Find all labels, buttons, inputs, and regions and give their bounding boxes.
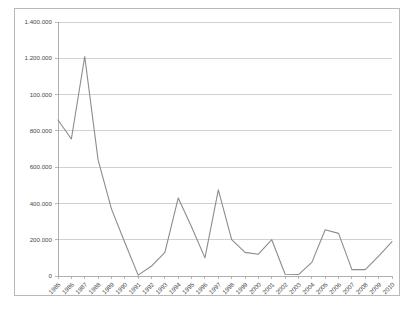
x-axis-tick-label: 2008 bbox=[354, 280, 369, 295]
x-axis-tick-label: 2001 bbox=[261, 280, 276, 295]
gridlines-group bbox=[58, 22, 392, 240]
x-axis-tick-label: 2005 bbox=[314, 280, 329, 295]
x-axis-tick-label: 1991 bbox=[127, 280, 142, 295]
y-axis-tick-label: 600.000 bbox=[30, 163, 53, 170]
x-axis-tick-label: 2007 bbox=[341, 280, 356, 295]
x-axis-tick-label: 1992 bbox=[141, 280, 156, 295]
x-axis-tick-label: 2009 bbox=[368, 280, 383, 295]
y-axis-tick-marks bbox=[55, 22, 58, 276]
y-axis-tick-label: 400.000 bbox=[30, 200, 53, 207]
x-axis-tick-label: 1994 bbox=[167, 280, 182, 295]
x-axis-tick-marks bbox=[58, 276, 392, 279]
y-axis-tick-label: 1.400.000 bbox=[24, 18, 52, 25]
x-axis-tick-label: 2003 bbox=[288, 280, 303, 295]
data-series-line bbox=[58, 56, 392, 275]
y-axis-tick-labels: 1.400.0001.200.000100.000800.000600.0004… bbox=[24, 18, 52, 279]
x-axis-tick-label: 1993 bbox=[154, 280, 169, 295]
x-axis-tick-label: 1988 bbox=[87, 280, 102, 295]
x-axis-tick-label: 1998 bbox=[221, 280, 236, 295]
x-axis-tick-label: 1986 bbox=[60, 280, 75, 295]
y-axis-tick-label: 1.200.000 bbox=[24, 54, 52, 61]
x-axis-tick-label: 1997 bbox=[207, 280, 222, 295]
x-axis-tick-label: 2010 bbox=[381, 280, 396, 295]
x-axis-tick-label: 1985 bbox=[47, 280, 62, 295]
x-axis-tick-label: 1990 bbox=[114, 280, 129, 295]
x-axis-tick-label: 1995 bbox=[181, 280, 196, 295]
y-axis-tick-label: 800.000 bbox=[30, 127, 53, 134]
x-axis-tick-label: 2006 bbox=[328, 280, 343, 295]
chart-figure: 1.400.0001.200.000100.000800.000600.0004… bbox=[0, 0, 416, 310]
x-axis-tick-label: 2004 bbox=[301, 280, 316, 295]
y-axis-tick-label: 100.000 bbox=[30, 91, 53, 98]
y-axis-tick-label: 200.000 bbox=[30, 236, 53, 243]
x-axis-tick-labels: 1985198619871988198919901991199219931994… bbox=[47, 280, 396, 295]
x-axis-tick-label: 1999 bbox=[234, 280, 249, 295]
x-axis-tick-label: 1989 bbox=[100, 280, 115, 295]
x-axis-tick-label: 1996 bbox=[194, 280, 209, 295]
x-axis-tick-label: 2002 bbox=[274, 280, 289, 295]
y-axis-tick-label: 0 bbox=[49, 272, 53, 279]
x-axis-tick-label: 2000 bbox=[247, 280, 262, 295]
x-axis-tick-label: 1987 bbox=[74, 280, 89, 295]
line-chart-plot: 1.400.0001.200.000100.000800.000600.0004… bbox=[0, 0, 416, 310]
